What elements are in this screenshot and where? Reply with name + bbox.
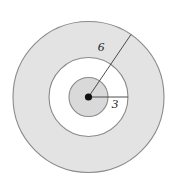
center-point-dot bbox=[85, 93, 92, 100]
inner-radius-label: 3 bbox=[111, 96, 119, 111]
figure-container: 6 3 bbox=[0, 0, 181, 188]
concentric-circles-figure: 6 3 bbox=[0, 0, 181, 188]
outer-radius-label: 6 bbox=[98, 39, 105, 54]
